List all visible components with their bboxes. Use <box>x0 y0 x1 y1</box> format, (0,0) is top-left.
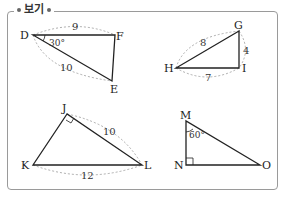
side-label-de: 10 <box>60 62 73 73</box>
side-label-jl: 10 <box>103 126 116 137</box>
triangle-dfe: D F E 9 10 30° <box>20 21 124 96</box>
side-label-hg: 8 <box>200 37 206 48</box>
vertex-label-f: F <box>116 30 124 43</box>
triangles-diagram: D F E 9 10 30° G H I 8 4 7 J K L 10 12 M… <box>0 0 284 198</box>
vertex-label-d: D <box>20 29 29 42</box>
vertex-label-n: N <box>174 159 184 172</box>
triangle-ghi: G H I 8 4 7 <box>164 19 249 83</box>
vertex-label-k: K <box>21 159 30 172</box>
vertex-label-m: M <box>180 109 191 122</box>
side-label-hi: 7 <box>205 72 211 83</box>
side-label-kl: 12 <box>81 170 94 181</box>
angle-label-d: 30° <box>49 38 65 48</box>
triangle-jkl: J K L 10 12 <box>21 102 152 181</box>
vertex-label-j: J <box>61 102 66 115</box>
vertex-label-h: H <box>164 62 174 75</box>
vertex-label-o: O <box>262 159 271 172</box>
vertex-label-l: L <box>144 159 152 172</box>
vertex-label-i: I <box>242 62 246 75</box>
side-label-df: 9 <box>72 21 78 32</box>
vertex-label-e: E <box>110 83 118 96</box>
angle-label-m: 60° <box>189 130 205 140</box>
vertex-label-g: G <box>234 19 243 32</box>
triangle-mno: M N O 60° <box>174 109 271 172</box>
side-label-gi: 4 <box>243 45 249 56</box>
